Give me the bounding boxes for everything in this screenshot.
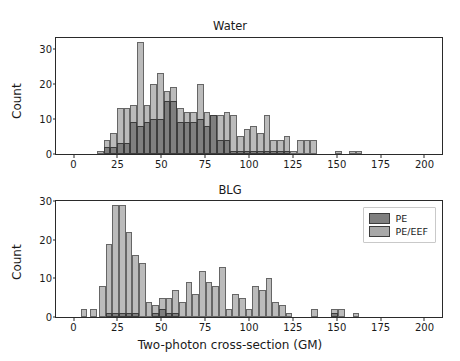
histogram-bar bbox=[177, 122, 184, 154]
histogram-bar bbox=[159, 309, 166, 317]
x-tick-label: 50 bbox=[155, 322, 168, 333]
x-tick-label: 25 bbox=[111, 159, 124, 170]
histogram-bar bbox=[272, 302, 279, 317]
histogram-bar bbox=[290, 151, 297, 155]
histogram-bar bbox=[210, 115, 217, 154]
panel-water: Water Count 0102030 02550751001251501752… bbox=[0, 0, 460, 180]
x-tick-label: 75 bbox=[199, 322, 212, 333]
histogram-bar bbox=[279, 305, 286, 317]
x-axis-label: Two-photon cross-section (GM) bbox=[0, 338, 460, 352]
histogram-bar bbox=[190, 122, 197, 154]
x-tick-mark bbox=[161, 317, 162, 321]
histogram-bar bbox=[232, 294, 239, 317]
legend: PEPE/EEF bbox=[363, 207, 436, 243]
x-tick-mark bbox=[205, 317, 206, 321]
legend-item: PE/EEF bbox=[369, 225, 428, 238]
histogram-bar bbox=[106, 313, 113, 317]
legend-item: PE bbox=[369, 212, 428, 225]
x-tick-label: 100 bbox=[239, 159, 258, 170]
panel-title-blg: BLG bbox=[0, 183, 460, 197]
legend-swatch bbox=[369, 213, 390, 224]
histogram-bar bbox=[277, 151, 284, 155]
histogram-bar bbox=[270, 151, 277, 155]
histogram-bar bbox=[166, 313, 173, 317]
histogram-bar bbox=[117, 143, 124, 154]
histogram-bar bbox=[206, 282, 213, 317]
histogram-bar bbox=[192, 294, 199, 317]
histogram-bar bbox=[172, 313, 179, 317]
legend-label: PE/EEF bbox=[396, 226, 428, 237]
x-tick-label: 200 bbox=[415, 322, 434, 333]
histogram-bar bbox=[353, 313, 360, 317]
y-tick-mark bbox=[53, 154, 57, 155]
histogram-bar bbox=[132, 255, 139, 317]
histogram-bar bbox=[304, 140, 311, 154]
histogram-bar bbox=[152, 313, 159, 317]
y-tick-label: 10 bbox=[39, 273, 52, 284]
y-axis-label-blg: Count bbox=[10, 244, 24, 280]
histogram-bar bbox=[164, 101, 171, 154]
x-tick-mark bbox=[336, 317, 337, 321]
histogram-bar bbox=[186, 282, 193, 317]
x-tick-label: 0 bbox=[70, 159, 76, 170]
histogram-bar bbox=[197, 119, 204, 154]
histogram-bar bbox=[266, 278, 273, 317]
figure-histogram-pair: Water Count 0102030 02550751001251501752… bbox=[0, 0, 460, 361]
histogram-bar bbox=[311, 309, 318, 317]
histogram-bar bbox=[110, 147, 117, 154]
x-tick-mark bbox=[380, 317, 381, 321]
y-tick-label: 20 bbox=[39, 234, 52, 245]
histogram-bar bbox=[104, 147, 111, 154]
histogram-bar bbox=[124, 143, 131, 154]
histogram-bar bbox=[217, 140, 224, 154]
x-tick-label: 150 bbox=[327, 159, 346, 170]
histogram-bar bbox=[284, 151, 291, 155]
histogram-bar bbox=[146, 302, 153, 317]
histogram-bar bbox=[170, 101, 177, 154]
histogram-bar bbox=[349, 151, 356, 155]
x-tick-mark bbox=[249, 317, 250, 321]
histogram-bar bbox=[144, 122, 151, 154]
y-tick-mark bbox=[53, 83, 57, 84]
histogram-bar bbox=[246, 309, 253, 317]
x-tick-mark bbox=[424, 317, 425, 321]
histogram-bar bbox=[264, 151, 271, 155]
bars-water bbox=[56, 38, 442, 154]
x-tick-label: 25 bbox=[111, 322, 124, 333]
y-tick-mark bbox=[53, 317, 57, 318]
x-tick-mark bbox=[424, 154, 425, 158]
histogram-bar bbox=[356, 151, 363, 155]
histogram-bar bbox=[239, 298, 246, 317]
x-tick-mark bbox=[292, 317, 293, 321]
x-tick-mark bbox=[249, 154, 250, 158]
histogram-bar bbox=[259, 290, 266, 317]
legend-label: PE bbox=[396, 213, 408, 224]
histogram-bar bbox=[286, 313, 293, 317]
y-tick-label: 20 bbox=[39, 78, 52, 89]
histogram-bar bbox=[81, 309, 88, 317]
histogram-bar bbox=[264, 115, 271, 154]
y-axis-label-water: Count bbox=[10, 83, 24, 119]
x-tick-label: 175 bbox=[371, 322, 390, 333]
x-tick-label: 0 bbox=[70, 322, 76, 333]
y-tick-mark bbox=[53, 201, 57, 202]
y-tick-label: 30 bbox=[39, 196, 52, 207]
histogram-bar bbox=[119, 313, 126, 317]
histogram-bar bbox=[204, 126, 211, 154]
x-tick-mark bbox=[161, 154, 162, 158]
panel-blg: BLG Count Two-photon cross-section (GM) … bbox=[0, 180, 460, 361]
panel-title-water: Water bbox=[0, 19, 460, 33]
histogram-bar bbox=[137, 126, 144, 154]
histogram-bar bbox=[310, 140, 317, 154]
x-tick-mark bbox=[336, 154, 337, 158]
histogram-bar bbox=[257, 151, 264, 155]
histogram-bar bbox=[157, 119, 164, 154]
y-tick-mark bbox=[53, 118, 57, 119]
y-tick-label: 0 bbox=[46, 312, 52, 323]
x-tick-mark bbox=[117, 317, 118, 321]
histogram-bar bbox=[237, 151, 244, 155]
histogram-bar bbox=[112, 205, 119, 317]
plot-area-water: 0102030 0255075100125150175200 bbox=[55, 37, 443, 155]
y-tick-label: 30 bbox=[39, 43, 52, 54]
histogram-bar bbox=[212, 286, 219, 317]
